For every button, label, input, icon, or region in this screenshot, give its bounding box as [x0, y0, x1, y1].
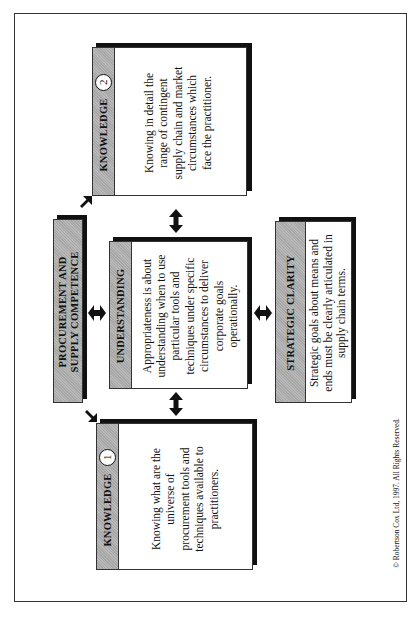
knowledge2-box: KNOWLEDGE 2 Knowing in detail the range …: [92, 47, 247, 196]
knowledge1-title-band: KNOWLEDGE 1: [97, 424, 119, 569]
understanding-title: UNDERSTANDING: [115, 269, 126, 364]
central-title-line1: PROCUREMENT AND: [57, 256, 70, 367]
knowledge1-text: Knowing what are the universe of procure…: [125, 429, 245, 569]
knowledge1-box: KNOWLEDGE 1 Knowing what are the univers…: [96, 423, 253, 570]
understanding-box: UNDERSTANDING Appropriateness is about u…: [109, 241, 248, 389]
double-arrow-knowledge2-understanding-icon: [169, 209, 183, 233]
knowledge2-number-badge: 2: [95, 74, 112, 91]
arrow-central-to-knowledge1-icon: [83, 408, 97, 422]
understanding-title-band: UNDERSTANDING: [110, 242, 132, 388]
central-box: PROCUREMENT AND SUPPLY COMPETENCE: [53, 219, 83, 403]
double-arrow-central-understanding-icon: [88, 305, 106, 321]
strategic-clarity-title: STRATEGIC CLARITY: [285, 255, 296, 371]
strategic-clarity-title-band: STRATEGIC CLARITY: [276, 222, 306, 402]
knowledge1-title: KNOWLEDGE: [102, 474, 113, 547]
understanding-text: Appropriateness is about understanding w…: [135, 244, 245, 388]
knowledge2-text: Knowing in detail the range of contingen…: [119, 52, 237, 194]
double-arrow-understanding-strategic-icon: [254, 305, 272, 321]
strategic-clarity-box: STRATEGIC CLARITY Strategic goals about …: [275, 221, 352, 403]
central-title-band: PROCUREMENT AND SUPPLY COMPETENCE: [53, 219, 83, 403]
arrow-central-to-knowledge2-icon: [78, 196, 92, 210]
double-arrow-understanding-knowledge1-icon: [169, 392, 183, 416]
strategic-clarity-text: Strategic goals about means and ends mus…: [306, 224, 351, 402]
knowledge2-title-band: KNOWLEDGE 2: [93, 48, 115, 195]
knowledge2-title: KNOWLEDGE: [98, 99, 109, 172]
central-title-line2: SUPPLY COMPETENCE: [69, 252, 82, 373]
knowledge1-number-badge: 1: [99, 449, 116, 466]
copyright-text: © Robertson Cox Ltd, 1997. All Rights Re…: [391, 398, 401, 588]
